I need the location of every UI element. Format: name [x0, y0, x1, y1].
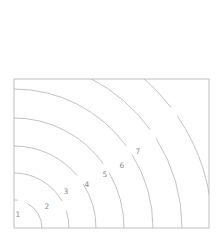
- contour-label: 3: [64, 187, 69, 196]
- contour-label: 5: [103, 170, 108, 179]
- contour-label: 1: [16, 210, 21, 219]
- contour-label: 2: [45, 202, 50, 211]
- contour-plot-figure: 1234567: [0, 0, 221, 235]
- contour-label: 6: [120, 161, 125, 170]
- contour-label: 7: [136, 147, 141, 156]
- plot-canvas: 1234567: [0, 0, 221, 235]
- contour-label: 4: [85, 180, 90, 189]
- axes-background: [14, 79, 209, 228]
